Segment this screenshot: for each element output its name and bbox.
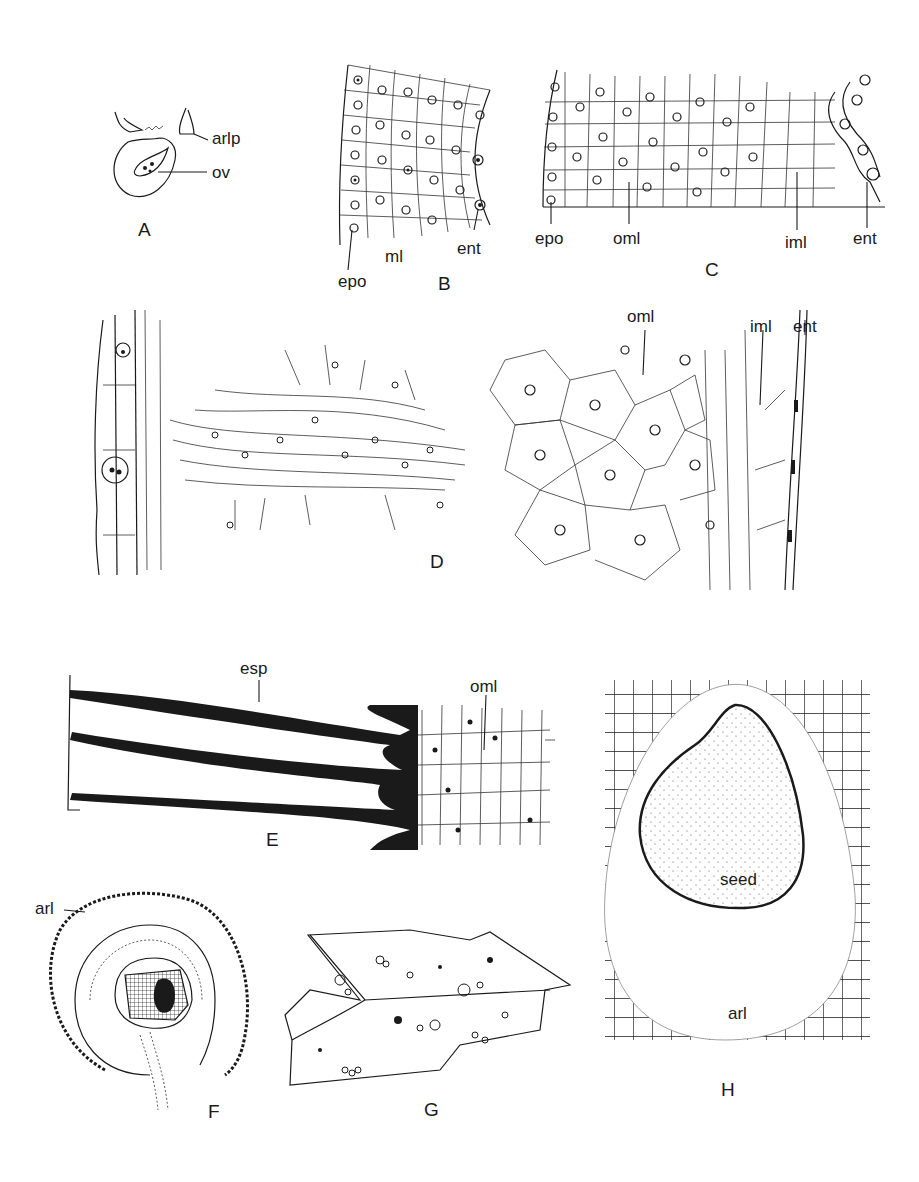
- tissue-section-c: [535, 62, 905, 287]
- label-arl: arl: [728, 1005, 747, 1022]
- aril-cell-drawing: [280, 920, 580, 1120]
- label-iml: iml: [750, 318, 772, 335]
- panel-letter-f: F: [208, 1102, 220, 1121]
- panel-letter-h: H: [721, 1080, 735, 1099]
- panel-d: oml iml ent D: [85, 290, 830, 600]
- label-arl: arl: [35, 900, 54, 917]
- panel-f: arl F: [30, 870, 270, 1130]
- label-esp: esp: [240, 660, 267, 677]
- panel-letter-c: C: [705, 260, 719, 279]
- panel-a: arlp ov A: [90, 100, 260, 245]
- panel-c: epo oml iml ent C: [535, 62, 905, 287]
- label-epo: epo: [338, 273, 366, 290]
- seed-with-aril-drawing: [30, 870, 270, 1130]
- label-iml: iml: [785, 234, 807, 251]
- label-oml: oml: [613, 230, 640, 247]
- panel-letter-d: D: [430, 552, 444, 571]
- label-ent: ent: [793, 318, 817, 335]
- panel-h: seed arl H: [595, 675, 875, 1105]
- tissue-section-b: [330, 60, 530, 300]
- panel-b: epo ml ent B: [330, 60, 530, 300]
- panel-letter-e: E: [266, 830, 279, 849]
- label-oml: oml: [470, 678, 497, 695]
- label-oml: oml: [627, 308, 654, 325]
- tissue-section-e: [50, 650, 595, 860]
- ovule-drawing: [90, 100, 260, 245]
- panel-g: G: [280, 920, 580, 1120]
- seed-aril-grid-drawing: [595, 675, 875, 1105]
- label-seed: seed: [720, 871, 757, 888]
- label-arlp: arlp: [212, 130, 240, 147]
- label-ent: ent: [457, 240, 481, 257]
- label-epo: epo: [535, 230, 563, 247]
- label-ov: ov: [212, 164, 230, 181]
- panel-letter-a: A: [138, 220, 151, 239]
- panel-letter-g: G: [424, 1100, 439, 1119]
- panel-e: esp oml E: [50, 650, 595, 860]
- label-ml: ml: [385, 248, 403, 265]
- label-ent: ent: [853, 230, 877, 247]
- tissue-section-d: [85, 290, 830, 600]
